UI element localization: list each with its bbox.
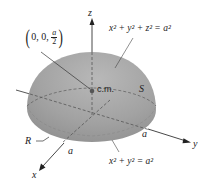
surface-label: S — [139, 84, 144, 94]
y-axis-arrowhead — [183, 138, 192, 143]
region-label: R — [25, 136, 31, 146]
x-axis-label: x — [32, 170, 36, 180]
region-leader — [36, 137, 49, 141]
disk-equation-leader — [112, 140, 119, 152]
hemisphere-surface — [27, 52, 156, 142]
y-axis — [148, 129, 186, 141]
z-axis-label: z — [88, 8, 92, 18]
cm-coordinate-label: (0, 0, a2) — [24, 26, 65, 48]
disk-equation: x² + y² = a² — [109, 157, 153, 167]
center-of-mass-dot — [90, 89, 95, 94]
cm-coordinate-fraction: a2 — [51, 29, 57, 46]
x-axis — [43, 143, 64, 166]
cm-coordinate-prefix: 0, 0, — [31, 31, 51, 42]
hemisphere-diagram: z y x (0, 0, a2) x² + y² + z² = a² c.m. … — [0, 0, 212, 185]
back-axis-extension — [16, 90, 30, 94]
radius-x-label: a — [68, 146, 73, 156]
radius-y-label: a — [142, 129, 147, 139]
fraction-denominator: 2 — [51, 38, 57, 46]
cm-label: c.m. — [97, 85, 114, 94]
y-axis-label: y — [193, 139, 197, 149]
sphere-equation: x² + y² + z² = a² — [109, 24, 171, 34]
z-axis-arrowhead — [90, 18, 95, 25]
